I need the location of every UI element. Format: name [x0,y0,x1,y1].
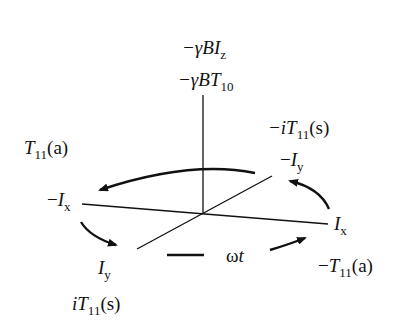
label-omega-t: ωt [226,246,244,265]
label-minus-gamma-B-Iz: −γBIz [182,38,226,61]
label-minus-Iy: −Iy [280,150,304,173]
rotation-arrow-left [81,222,116,245]
y-axis [137,176,272,249]
rotation-arrow-top [100,169,255,190]
rotation-arrow-right [290,181,329,209]
label-i-T11-s: iT11(s) [72,294,120,317]
label-minus-i-T11-s: −iT11(s) [268,118,329,141]
label-minus-Ix: −Ix [47,190,71,213]
x-axis [82,204,328,224]
label-Ix: Ix [334,214,347,237]
label-minus-T11-a: −T11(a) [318,256,373,279]
label-T11-a: T11(a) [24,138,68,161]
label-minus-gamma-B-T10: −γBT10 [178,70,234,93]
rotation-arrow-bottom-right [270,238,305,250]
label-Iy: Iy [98,258,111,281]
